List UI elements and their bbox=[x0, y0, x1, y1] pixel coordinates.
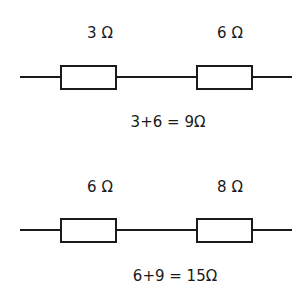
resistor-label: 8 Ω bbox=[217, 178, 243, 196]
resistor-label: 6 Ω bbox=[87, 178, 113, 196]
resistor-symbol bbox=[196, 218, 253, 243]
resistor-symbol bbox=[196, 65, 253, 90]
total-resistance-formula: 3+6 = 9Ω bbox=[131, 113, 206, 131]
total-resistance-formula: 6+9 = 15Ω bbox=[133, 267, 217, 285]
resistor-label: 3 Ω bbox=[87, 24, 113, 42]
resistor-label: 6 Ω bbox=[217, 24, 243, 42]
series-circuit-2: 6 Ω 8 Ω 6+9 = 15Ω bbox=[0, 145, 307, 290]
resistor-symbol bbox=[60, 218, 117, 243]
series-circuit-1: 3 Ω 6 Ω 3+6 = 9Ω bbox=[0, 0, 307, 145]
resistor-symbol bbox=[60, 65, 117, 90]
